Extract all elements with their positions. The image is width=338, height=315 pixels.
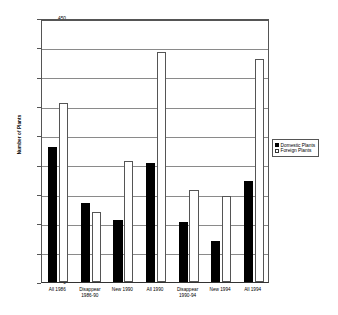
bar-foreign bbox=[157, 52, 166, 282]
bar-foreign bbox=[59, 103, 68, 282]
x-axis-tick-label: All 1994 bbox=[230, 287, 275, 293]
bar-foreign bbox=[255, 59, 264, 282]
gridline bbox=[42, 108, 268, 109]
x-axis-tick-label-line: 1986-90 bbox=[68, 293, 113, 299]
legend-item: Domestic Plants bbox=[275, 143, 315, 148]
legend-swatch-domestic-icon bbox=[275, 143, 279, 147]
x-axis-tick-label-line: 1990-94 bbox=[165, 293, 210, 299]
y-axis-title: Number of Plants bbox=[17, 95, 22, 175]
legend-swatch-foreign-icon bbox=[275, 149, 279, 153]
bar-domestic bbox=[244, 181, 253, 282]
gridline bbox=[42, 137, 268, 138]
bar-domestic bbox=[48, 147, 57, 282]
bar-domestic bbox=[146, 163, 155, 282]
bar-domestic bbox=[179, 222, 188, 282]
bar-foreign bbox=[189, 190, 198, 282]
y-axis-tick-mark bbox=[37, 283, 41, 284]
gridline bbox=[42, 20, 268, 21]
x-axis-tick-label-line: All 1994 bbox=[230, 287, 275, 293]
gridline bbox=[42, 78, 268, 79]
plot-area bbox=[41, 19, 269, 283]
bar-domestic bbox=[211, 241, 220, 282]
bar-foreign bbox=[92, 212, 101, 282]
bar-foreign bbox=[124, 161, 133, 282]
legend-label-foreign: Foreign Plants bbox=[281, 148, 312, 153]
gridline bbox=[42, 49, 268, 50]
bar-domestic bbox=[81, 203, 90, 282]
bar-foreign bbox=[222, 196, 231, 282]
bar-domestic bbox=[113, 220, 122, 282]
legend-label-domestic: Domestic Plants bbox=[281, 143, 316, 148]
legend-item: Foreign Plants bbox=[275, 148, 315, 153]
legend: Domestic Plants Foreign Plants bbox=[272, 139, 319, 157]
bar-chart: Number of Plants 05010015020025030035040… bbox=[0, 0, 338, 315]
